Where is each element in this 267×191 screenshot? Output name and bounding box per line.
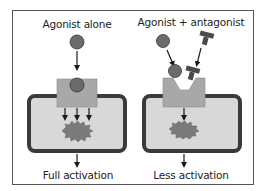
left-panel [29, 35, 125, 165]
binding-arrow-icon [167, 50, 173, 64]
binding-arrow-icon [197, 48, 201, 64]
agonist-bound-icon [169, 65, 182, 78]
agonist-free-icon [70, 35, 84, 49]
agonist-free-icon [157, 35, 170, 48]
diagram-graphics [0, 0, 267, 191]
agonist-bound-icon [70, 78, 84, 92]
antagonist-free-icon [197, 30, 214, 46]
receptor-blocked-icon [163, 78, 205, 107]
right-panel [144, 30, 240, 165]
